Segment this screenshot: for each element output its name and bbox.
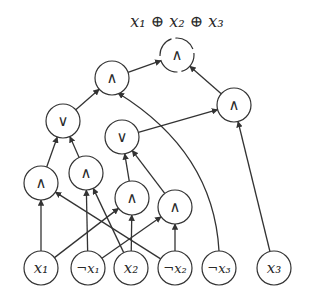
edge-b2-to-o1 — [70, 137, 79, 158]
gate-node-b4: ∧ — [158, 190, 192, 224]
and-symbol: ∧ — [229, 96, 240, 114]
gate-node-x2: x₂ — [114, 251, 148, 285]
gate-node-b2: ∧ — [69, 156, 103, 190]
gate-node-a2: ∧ — [217, 88, 251, 122]
input-label: x₃ — [267, 259, 281, 277]
or-symbol: ∨ — [117, 128, 128, 146]
and-symbol: ∧ — [172, 46, 183, 64]
and-symbol: ∧ — [107, 69, 118, 87]
gate-node-nx3: ¬x₃ — [202, 251, 236, 285]
edge-b1-to-o1 — [47, 137, 58, 167]
gate-node-a1: ∧ — [95, 61, 129, 95]
and-symbol: ∧ — [127, 189, 138, 207]
edge-o1-to-a1 — [76, 89, 99, 110]
edge-a2-to-out — [190, 66, 221, 94]
gate-node-nx1: ¬x₁ — [71, 251, 105, 285]
edge-nx1-to-b2 — [86, 190, 87, 251]
circuit-nodes: ∧∧∧∨∨∧∧∧∧x₁¬x₁x₂¬x₂¬x₃x₃ — [24, 38, 291, 285]
edge-x2-to-b3 — [131, 215, 132, 251]
gate-node-o1: ∨ — [46, 104, 80, 138]
edge-x3-to-a2 — [238, 122, 270, 252]
or-symbol: ∨ — [58, 112, 69, 130]
edge-b3-to-o2 — [125, 154, 129, 181]
boolean-circuit-diagram: x₁ ⊕ x₂ ⊕ x₃ ∧∧∧∨∨∧∧∧∧x₁¬x₁x₂¬x₂¬x₃x₃ — [0, 0, 314, 304]
gate-node-b1: ∧ — [24, 166, 58, 200]
input-label: x₂ — [124, 259, 138, 277]
input-label: x₁ — [34, 259, 48, 277]
gate-node-x1: x₁ — [24, 251, 58, 285]
edge-nx3-to-a1 — [118, 93, 219, 251]
input-label: ¬x₂ — [163, 261, 186, 276]
gate-node-o2: ∨ — [105, 120, 139, 154]
circuit-output-formula: x₁ ⊕ x₂ ⊕ x₃ — [0, 12, 314, 31]
and-symbol: ∧ — [81, 164, 92, 182]
and-symbol: ∧ — [170, 198, 181, 216]
gate-node-x3: x₃ — [257, 251, 291, 285]
circuit-graph: ∧∧∧∨∨∧∧∧∧x₁¬x₁x₂¬x₂¬x₃x₃ — [0, 0, 314, 304]
gate-node-out: ∧ — [160, 38, 194, 72]
input-label: ¬x₃ — [207, 261, 230, 276]
edge-a1-to-out — [128, 61, 161, 73]
gate-node-b3: ∧ — [115, 181, 149, 215]
edge-o2-to-a2 — [138, 110, 217, 133]
and-symbol: ∧ — [36, 174, 47, 192]
input-label: ¬x₁ — [76, 261, 99, 276]
gate-node-nx2: ¬x₂ — [158, 251, 192, 285]
